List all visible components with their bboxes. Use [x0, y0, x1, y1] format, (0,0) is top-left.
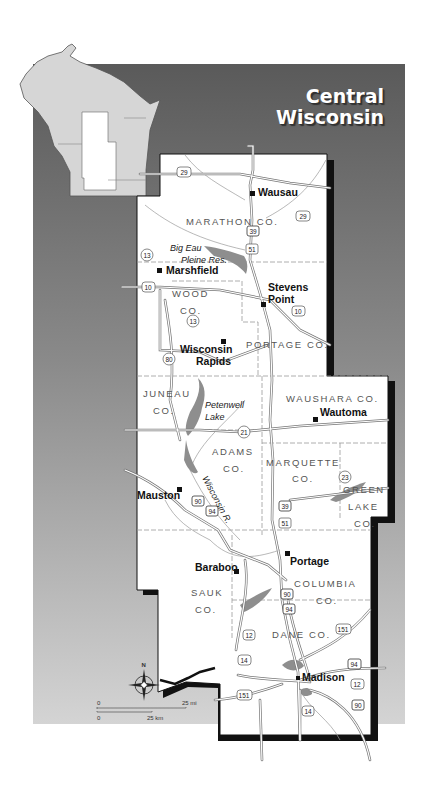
svg-text:14: 14: [304, 708, 312, 715]
svg-text:25 mi: 25 mi: [182, 700, 197, 706]
svg-text:39: 39: [249, 228, 257, 235]
svg-text:51: 51: [281, 520, 289, 527]
svg-text:25 km: 25 km: [147, 715, 163, 721]
county-marathon: MARATHON CO.: [186, 216, 278, 227]
svg-text:94: 94: [285, 606, 293, 613]
map-title-line1: Central: [276, 86, 384, 107]
county-sauk-co: CO.: [195, 604, 217, 615]
svg-text:90: 90: [283, 591, 291, 598]
county-adams-co: CO.: [223, 463, 245, 474]
map-title: Central Wisconsin: [276, 86, 384, 128]
city-wautoma: Wautoma: [320, 406, 367, 418]
svg-text:29: 29: [180, 169, 188, 176]
city-portage: Portage: [290, 555, 329, 567]
svg-text:151: 151: [239, 692, 250, 699]
county-green-lake-lake: LAKE: [348, 501, 379, 512]
county-green-lake-co: CO.: [354, 518, 376, 529]
svg-text:Lake: Lake: [205, 412, 225, 422]
map-title-line2: Wisconsin: [276, 107, 384, 128]
county-sauk: SAUK: [191, 587, 223, 598]
city-baraboo: Baraboo: [195, 561, 238, 573]
svg-text:23: 23: [341, 474, 349, 481]
county-adams: ADAMS: [212, 446, 254, 457]
svg-text:151: 151: [338, 626, 349, 633]
svg-text:39: 39: [281, 503, 289, 510]
svg-text:51: 51: [248, 246, 256, 253]
svg-text:21: 21: [240, 429, 248, 436]
svg-text:10: 10: [294, 308, 302, 315]
county-juneau: JUNEAU: [143, 388, 191, 399]
county-green-lake: GREEN: [343, 484, 385, 495]
svg-text:90: 90: [354, 702, 362, 709]
svg-text:Big Eau: Big Eau: [170, 243, 202, 253]
city-wausau: Wausau: [258, 186, 298, 198]
svg-text:13: 13: [189, 318, 197, 325]
svg-text:29: 29: [299, 213, 307, 220]
county-juneau-co: CO.: [153, 405, 175, 416]
svg-text:Rapids: Rapids: [196, 355, 231, 367]
svg-text:94: 94: [350, 661, 358, 668]
svg-text:Petenwell: Petenwell: [205, 400, 245, 410]
county-wood-co: CO.: [180, 305, 202, 316]
county-wood: WOOD: [172, 288, 209, 299]
city-mauston: Mauston: [137, 489, 180, 501]
svg-text:80: 80: [165, 356, 173, 363]
county-dane: DANE CO.: [272, 629, 331, 640]
city-marshfield: Marshfield: [166, 264, 219, 276]
svg-text:14: 14: [240, 657, 248, 664]
county-columbia: COLUMBIA: [294, 578, 356, 589]
svg-text:90: 90: [194, 498, 202, 505]
city-stevens-point: Stevens: [268, 281, 308, 293]
svg-text:12: 12: [353, 681, 361, 688]
svg-text:10: 10: [144, 284, 152, 291]
county-marquette-co: CO.: [292, 473, 314, 484]
city-madison: Madison: [302, 671, 345, 683]
svg-text:Point: Point: [268, 293, 295, 305]
county-marquette: MARQUETTE: [266, 457, 340, 468]
svg-text:12: 12: [245, 632, 253, 639]
svg-text:94: 94: [208, 508, 216, 515]
svg-text:N: N: [142, 662, 146, 668]
county-columbia-co: CO.: [316, 595, 338, 606]
county-portage: PORTAGE CO.: [246, 339, 329, 350]
city-wisconsin-rapids: Wisconsin: [180, 343, 232, 355]
svg-text:13: 13: [143, 252, 151, 259]
county-waushara: WAUSHARA CO.: [286, 393, 379, 404]
